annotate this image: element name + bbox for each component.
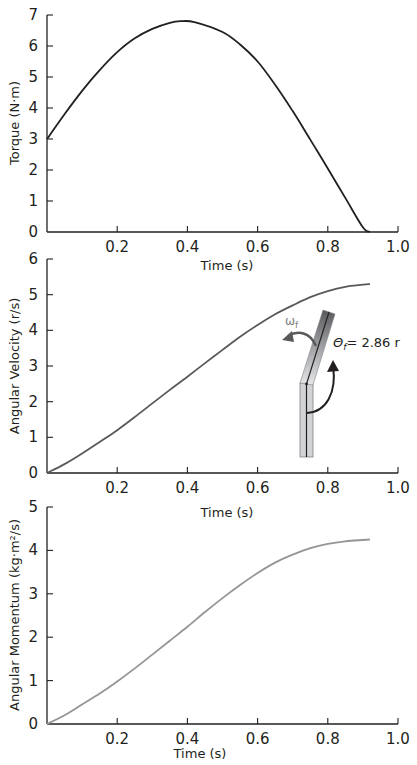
x-tick-label: 0.2: [105, 238, 129, 256]
y-tick-label: 2: [28, 393, 38, 411]
angular-momentum-axes: 0123450.20.40.60.81.0: [28, 498, 409, 748]
x-tick-label: 0.8: [316, 238, 340, 256]
x-tick-label: 1.0: [386, 730, 410, 748]
angular-momentum-chart: 0123450.20.40.60.81.0 Time (s) Angular M…: [7, 498, 410, 761]
theta-arrowhead-icon: [327, 360, 339, 372]
y-tick-label: 4: [28, 99, 38, 117]
x-tick-label: 1.0: [386, 479, 410, 497]
theta-f-label: Θf= 2.86 r: [333, 335, 401, 352]
limb-diagram: ωf Θf= 2.86 r: [282, 310, 401, 457]
y-tick-label: 5: [28, 68, 38, 86]
y-tick-label: 6: [28, 250, 38, 268]
angular-velocity-axes: 01234560.20.40.60.81.0: [28, 250, 409, 497]
y-tick-label: 0: [28, 223, 38, 241]
torque-y-axis-title: Torque (N·m): [7, 81, 22, 166]
x-tick-label: 1.0: [386, 238, 410, 256]
y-tick-label: 2: [28, 161, 38, 179]
angular-velocity-x-axis-title: Time (s): [200, 505, 254, 520]
y-tick-label: 1: [28, 428, 38, 446]
angular-momentum-curve: [47, 540, 370, 725]
angular-velocity-y-axis-title: Angular Velocity (r/s): [7, 298, 22, 434]
x-tick-label: 0.8: [316, 479, 340, 497]
y-tick-label: 7: [28, 6, 38, 24]
torque-chart: 012345670.20.40.60.81.0 Time (s) Torque …: [7, 6, 410, 273]
y-tick-label: 2: [28, 628, 38, 646]
y-tick-label: 4: [28, 541, 38, 559]
joint-dot: [305, 383, 308, 386]
y-tick-label: 3: [28, 130, 38, 148]
torque-x-axis-title: Time (s): [200, 258, 254, 273]
y-tick-label: 3: [28, 357, 38, 375]
x-tick-label: 0.2: [105, 479, 129, 497]
y-tick-label: 0: [28, 715, 38, 733]
y-tick-label: 4: [28, 321, 38, 339]
upper-segment-axis: [307, 312, 330, 384]
x-tick-label: 0.6: [246, 479, 270, 497]
x-tick-label: 0.6: [246, 730, 270, 748]
y-tick-label: 3: [28, 585, 38, 603]
y-tick-label: 6: [28, 37, 38, 55]
angular-momentum-x-axis-title: Time (s): [173, 746, 227, 761]
x-tick-label: 0.8: [316, 730, 340, 748]
x-tick-label: 0.4: [175, 479, 199, 497]
torque-axes: 012345670.20.40.60.81.0: [28, 6, 409, 256]
figure: 012345670.20.40.60.81.0 Time (s) Torque …: [0, 0, 417, 765]
x-tick-label: 0.4: [175, 238, 199, 256]
torque-curve: [47, 21, 370, 232]
omega-f-label: ωf: [285, 314, 299, 330]
y-tick-label: 1: [28, 672, 38, 690]
y-tick-label: 1: [28, 192, 38, 210]
angular-velocity-curve: [47, 284, 370, 473]
x-tick-label: 0.2: [105, 730, 129, 748]
angular-momentum-y-axis-title: Angular Momentum (kg·m²/s): [7, 519, 22, 711]
omega-arrowhead-icon: [282, 331, 294, 342]
x-tick-label: 0.6: [246, 238, 270, 256]
y-tick-label: 5: [28, 498, 38, 516]
y-tick-label: 5: [28, 286, 38, 304]
y-tick-label: 0: [28, 464, 38, 482]
angular-velocity-chart: 01234560.20.40.60.81.0 Time (s) Angular …: [7, 250, 410, 520]
